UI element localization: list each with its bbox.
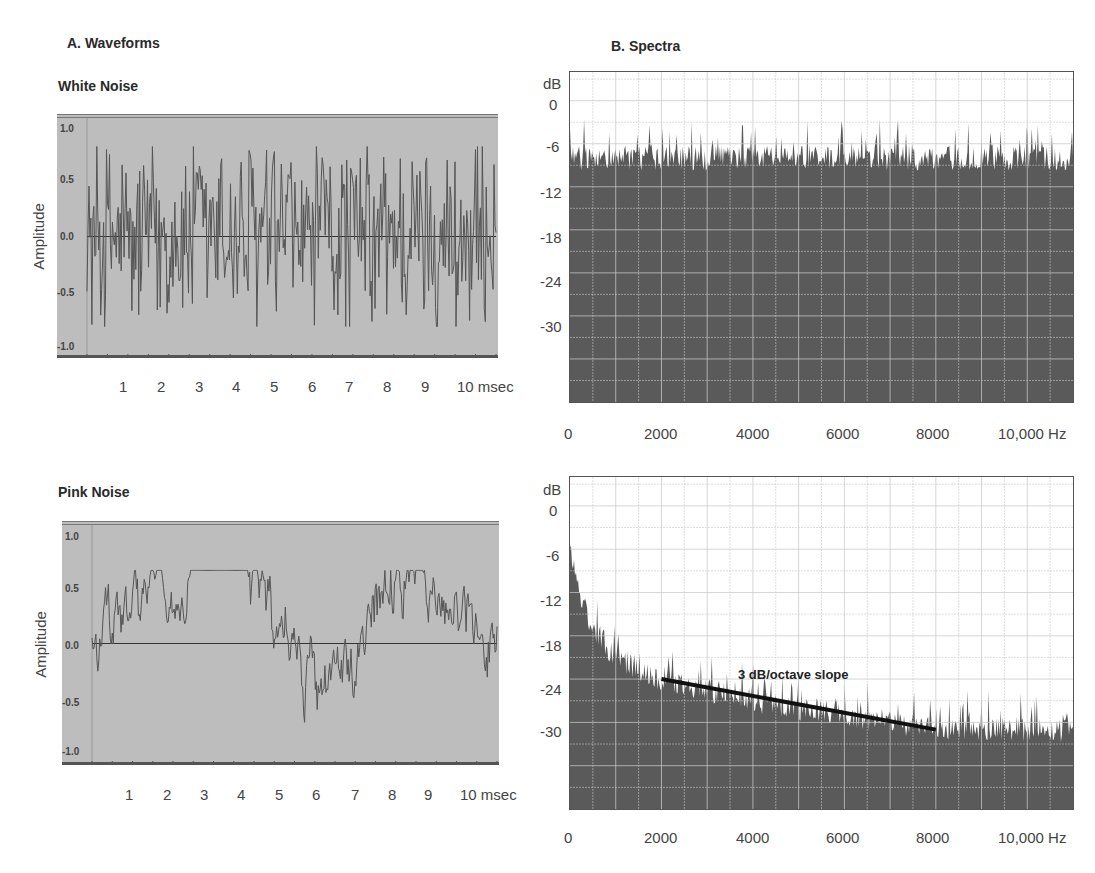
white-noise-xtick: 2 bbox=[157, 378, 165, 395]
white-noise-xtick: 7 bbox=[345, 378, 353, 395]
pink-spectrum-ytick: -6 bbox=[546, 547, 559, 564]
white-noise-ytick: 0.5 bbox=[60, 174, 74, 185]
pink-noise-ytick: 1.0 bbox=[65, 531, 79, 542]
white-noise-ytick: -1.0 bbox=[57, 341, 74, 352]
white-noise-ytick: 0.0 bbox=[60, 231, 74, 242]
white-noise-waveform-svg bbox=[57, 118, 498, 355]
pink-noise-ylabel: Amplitude bbox=[32, 605, 49, 685]
pink-spectrum-ytick: -12 bbox=[540, 592, 562, 609]
pink-spectrum-yunit: dB bbox=[543, 481, 561, 498]
white-noise-title: White Noise bbox=[58, 78, 138, 94]
white-spectrum-xtick: 8000 bbox=[916, 425, 949, 442]
pink-noise-xtick: 8 bbox=[388, 786, 396, 803]
pink-spectrum-ytick: -18 bbox=[540, 637, 562, 654]
white-spectrum-xtick: 6000 bbox=[826, 425, 859, 442]
white-noise-ytick: 1.0 bbox=[60, 123, 74, 134]
white-noise-spectrum-plot bbox=[569, 71, 1074, 403]
white-noise-xtick: 8 bbox=[383, 378, 391, 395]
white-spectrum-ytick: -24 bbox=[540, 273, 562, 290]
white-noise-xtick: 3 bbox=[195, 378, 203, 395]
white-spectrum-ytick: -12 bbox=[540, 184, 562, 201]
pink-spectrum-ytick: 0 bbox=[549, 502, 557, 519]
white-spectrum-ytick: -30 bbox=[540, 318, 562, 335]
white-noise-xtick: 4 bbox=[232, 378, 240, 395]
pink-spectrum-xtick: 2000 bbox=[644, 829, 677, 846]
pink-noise-xtick: 7 bbox=[351, 786, 359, 803]
pink-noise-xtick: 2 bbox=[163, 786, 171, 803]
white-spectrum-ytick: -18 bbox=[540, 229, 562, 246]
waveforms-section-title: A. Waveforms bbox=[67, 35, 160, 51]
pink-noise-spectrum-plot bbox=[569, 476, 1074, 810]
white-spectrum-yunit: dB bbox=[543, 75, 561, 92]
pink-spectrum-ytick: -30 bbox=[540, 723, 562, 740]
pink-noise-xtick: 4 bbox=[237, 786, 245, 803]
pink-noise-xtick: 5 bbox=[275, 786, 283, 803]
pink-spectrum-ytick: -24 bbox=[540, 681, 562, 698]
pink-spectrum-xtick: 8000 bbox=[916, 829, 949, 846]
white-spectrum-ytick: -6 bbox=[546, 138, 559, 155]
pink-spectrum-xtick: 6000 bbox=[826, 829, 859, 846]
spectra-section-title: B. Spectra bbox=[611, 38, 680, 54]
white-noise-xtick: 6 bbox=[308, 378, 316, 395]
pink-noise-xtick: 1 bbox=[125, 786, 133, 803]
white-noise-waveform-plot bbox=[57, 114, 498, 358]
pink-spectrum-xtick: 4000 bbox=[736, 829, 769, 846]
white-noise-xtick: 1 bbox=[119, 378, 127, 395]
white-noise-ylabel: Amplitude bbox=[30, 197, 47, 277]
white-noise-xtick: 9 bbox=[421, 378, 429, 395]
white-noise-ytick: -0.5 bbox=[57, 287, 74, 298]
white-spectrum-xtick: 0 bbox=[564, 425, 572, 442]
pink-noise-spectrum-svg bbox=[570, 477, 1073, 809]
white-noise-spectrum-svg bbox=[570, 72, 1073, 402]
pink-noise-ytick: -0.5 bbox=[62, 697, 79, 708]
pink-noise-ytick: -1.0 bbox=[62, 746, 79, 757]
pink-noise-waveform-svg bbox=[62, 525, 499, 762]
pink-noise-xtick: 3 bbox=[200, 786, 208, 803]
pink-noise-xtick: 9 bbox=[424, 786, 432, 803]
pink-noise-waveform-plot bbox=[62, 521, 499, 765]
white-spectrum-ytick: 0 bbox=[549, 96, 557, 113]
pink-noise-ytick: 0.5 bbox=[65, 583, 79, 594]
slope-annotation-label: 3 dB/octave slope bbox=[738, 667, 849, 682]
pink-spectrum-xtick: 0 bbox=[564, 829, 572, 846]
white-spectrum-xtick: 4000 bbox=[736, 425, 769, 442]
white-noise-xtick: 10 msec bbox=[457, 378, 514, 395]
pink-noise-xtick: 6 bbox=[312, 786, 320, 803]
white-spectrum-xtick: 10,000 Hz bbox=[998, 425, 1066, 442]
white-spectrum-xtick: 2000 bbox=[644, 425, 677, 442]
pink-noise-ytick: 0.0 bbox=[65, 640, 79, 651]
pink-spectrum-xtick: 10,000 Hz bbox=[998, 829, 1066, 846]
white-noise-xtick: 5 bbox=[270, 378, 278, 395]
pink-noise-title: Pink Noise bbox=[58, 484, 130, 500]
pink-noise-xtick: 10 msec bbox=[460, 786, 517, 803]
